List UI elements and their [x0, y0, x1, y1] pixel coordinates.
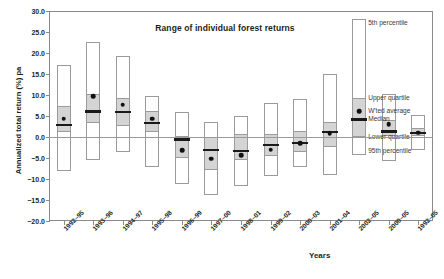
annotation-median: Median	[368, 115, 390, 122]
weighted-average-marker	[416, 131, 421, 136]
y-axis-tick-mark	[46, 179, 50, 180]
median-marker	[263, 144, 279, 146]
median-marker	[85, 110, 101, 112]
y-axis-tick-mark	[46, 74, 50, 75]
y-axis-tick-label: −15.0	[13, 197, 45, 204]
y-axis-tick-mark	[46, 95, 50, 96]
weighted-average-marker	[298, 141, 303, 146]
weighted-average-marker	[357, 109, 362, 114]
box-plot-item[interactable]	[86, 11, 100, 221]
median-marker	[144, 122, 160, 124]
y-axis-tick-mark	[46, 200, 50, 201]
y-axis-tick-label: −20.0	[13, 218, 45, 225]
weighted-average-marker	[327, 131, 332, 136]
interquartile-box	[204, 137, 218, 170]
box-plot-item[interactable]	[145, 11, 159, 221]
weighted-average-marker	[209, 157, 214, 162]
box-plot-item[interactable]	[411, 11, 425, 221]
weighted-average-marker	[91, 94, 96, 99]
y-axis-tick-mark	[46, 11, 50, 12]
y-axis-tick-mark	[46, 32, 50, 33]
box-plot-item[interactable]	[57, 11, 71, 221]
median-marker	[115, 111, 131, 113]
weighted-average-marker	[180, 148, 185, 153]
y-axis-tick-label: 10.0	[13, 92, 45, 99]
y-axis-tick-label: −10.0	[13, 176, 45, 183]
box-plot-item[interactable]	[116, 11, 130, 221]
median-marker	[233, 150, 249, 152]
weighted-average-marker	[61, 116, 66, 121]
box-plot-item[interactable]	[204, 11, 218, 221]
y-axis-tick-label: 30.0	[13, 8, 45, 15]
weighted-average-marker	[239, 153, 244, 158]
weighted-average-marker	[121, 102, 126, 107]
weighted-average-marker	[268, 147, 273, 152]
y-axis-tick-label: −5.0	[13, 155, 45, 162]
annotation-p5: 5th percentile	[368, 19, 408, 26]
box-plot-item[interactable]	[293, 11, 307, 221]
median-marker	[174, 138, 190, 140]
annotation-weighted-average: W'ted average	[368, 107, 410, 114]
median-marker	[351, 118, 367, 120]
box-plot-item[interactable]	[175, 11, 189, 221]
median-marker	[203, 149, 219, 151]
box-plot-item[interactable]	[264, 11, 278, 221]
y-axis-tick-label: 0.0	[13, 134, 45, 141]
y-axis-tick-mark	[46, 53, 50, 54]
box-plot-item[interactable]	[323, 11, 337, 221]
zero-reference-line	[49, 137, 433, 138]
y-axis-tick-mark	[46, 221, 50, 222]
y-axis-tick-label: 15.0	[13, 71, 45, 78]
median-marker	[56, 124, 72, 126]
annotation-upper-quartile: Upper quartile	[368, 94, 409, 101]
y-axis-tick-label: 25.0	[13, 29, 45, 36]
y-axis-tick-mark	[46, 158, 50, 159]
box-plot-item[interactable]	[352, 11, 366, 221]
y-axis-tick-label: 5.0	[13, 113, 45, 120]
x-axis-title: Years	[309, 251, 330, 260]
box-plot-item[interactable]	[234, 11, 248, 221]
weighted-average-marker	[150, 116, 155, 121]
weighted-average-marker	[386, 122, 391, 127]
y-axis-tick-mark	[46, 116, 50, 117]
annotation-p95: 95th percentile	[368, 147, 411, 154]
y-axis-tick-label: 20.0	[13, 50, 45, 57]
chart-root: Range of individual forest returns Annua…	[0, 0, 444, 279]
